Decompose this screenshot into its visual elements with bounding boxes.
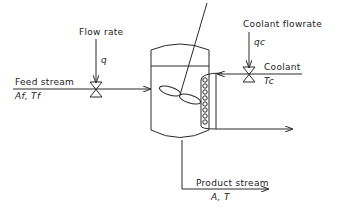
reactor-tank xyxy=(151,44,209,138)
q-label: q xyxy=(101,55,107,65)
coolant-flowrate-label: Coolant flowrate xyxy=(243,19,322,29)
flow-rate-label: Flow rate xyxy=(79,27,124,37)
product-vars-label: A, T xyxy=(210,192,231,202)
feed-stream-label: Feed stream xyxy=(15,77,74,87)
agitator-icon xyxy=(158,3,207,106)
feed-vars-label: Af, Tf xyxy=(14,91,42,101)
qc-label: qc xyxy=(254,37,265,47)
product-stream-label: Product stream xyxy=(196,178,269,188)
cstr-diagram: Flow rate q Feed stream Af, Tf Coolant f… xyxy=(0,0,341,214)
coolant-label: Coolant xyxy=(264,62,301,72)
tc-label: Tc xyxy=(264,76,274,86)
cooling-coil-icon xyxy=(201,73,222,129)
